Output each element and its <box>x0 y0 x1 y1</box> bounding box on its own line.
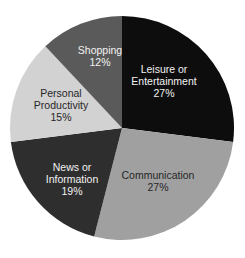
pie-slice-value: 15% <box>50 110 71 122</box>
pie-slice-name: Information <box>46 173 99 185</box>
pie-slice-name: Personal <box>40 87 81 99</box>
pie-slice-value: 27% <box>153 86 174 98</box>
pie-slice-value: 19% <box>61 184 82 196</box>
pie-slice-name: Entertainment <box>131 75 196 87</box>
pie-chart-figure: Leisure orEntertainment27%Communication2… <box>0 0 245 258</box>
pie-chart-svg: Leisure orEntertainment27%Communication2… <box>0 0 245 258</box>
pie-slice-name: Shopping <box>78 44 123 56</box>
pie-slice-name: Productivity <box>34 99 89 111</box>
pie-slice-name: News or <box>53 161 92 173</box>
pie-slice-value: 27% <box>147 181 168 193</box>
pie-slice-value: 12% <box>89 56 110 68</box>
pie-slice-name: Communication <box>122 169 195 181</box>
pie-slice-name: Leisure or <box>141 63 188 75</box>
